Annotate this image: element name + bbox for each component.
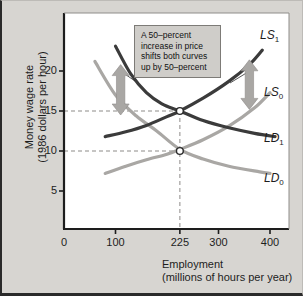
x-axis-title: Employment (millions of hours per year) [162, 258, 292, 284]
annotation-line-4: up by 50–percent [141, 62, 207, 72]
curve-label-ld0: LD0 [264, 171, 284, 187]
y-axis-title-main: Money wage rate [23, 42, 36, 172]
initial-equilibrium [176, 148, 183, 155]
annotation-line-3: shifts both curves [141, 51, 207, 61]
annotation-line-1: A 50–percent [141, 30, 191, 40]
curve-label-subscript: 1 [279, 138, 283, 147]
x-tick-label-300: 300 [205, 236, 233, 248]
annotation-callout: A 50–percent increase in price shifts bo… [134, 25, 221, 78]
curve-label-text: LD [264, 171, 279, 185]
x-tick-label-225: 225 [166, 236, 194, 248]
y-tick-label-5: 5 [40, 184, 57, 196]
curve-label-ld1: LD1 [264, 131, 284, 147]
x-axis-title-units: (millions of hours per year) [162, 271, 292, 284]
curve-label-text: LS [260, 28, 275, 42]
curve-label-subscript: 0 [279, 178, 283, 187]
y-tick-label-20: 20 [40, 64, 57, 76]
x-axis-title-main: Employment [162, 258, 292, 271]
curve-label-subscript: 1 [275, 35, 279, 44]
curve-label-text: LD [264, 131, 279, 145]
curve-label-ls0: LS0 [264, 85, 283, 101]
y-tick-label-10: 10 [40, 144, 57, 156]
annotation-line-2: increase in price [141, 41, 203, 51]
x-tick-label-0: 0 [50, 236, 78, 248]
curve-label-subscript: 0 [279, 92, 283, 101]
labor-market-figure: Money wage rate (1986 dollars per hour) … [0, 0, 303, 296]
y-tick-label-15: 15 [40, 104, 57, 116]
new-equilibrium [176, 108, 183, 115]
curve-label-ls1: LS1 [260, 28, 279, 44]
curve-label-text: LS [264, 85, 279, 99]
x-tick-label-400: 400 [256, 236, 284, 248]
x-tick-label-100: 100 [102, 236, 130, 248]
